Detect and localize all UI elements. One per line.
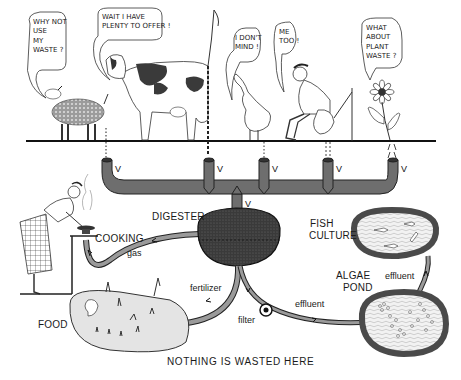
label-filter: filter [238,316,255,325]
woman-cooking-illustration [20,182,84,294]
label-fertilizer: fertilizer [190,284,222,293]
caption: NOTHING IS WASTED HERE [167,357,314,367]
label-pond: POND [343,283,373,293]
label-effluent-top: effluent [385,272,414,281]
goose-illustration [234,74,271,140]
label-fish: FISH [310,219,334,229]
label-culture: CULTURE [309,231,357,241]
pipe-mark-2: V [217,164,223,174]
toilet-waste-drip [326,142,330,160]
label-cooking: COOKING [95,234,144,244]
speech-text-cow: WAIT I HAVE PLENTY TO OFFER ! [102,13,170,32]
label-algae: ALGAE [336,271,370,281]
plant-waste-drip [388,144,396,158]
algae-pond [362,292,446,354]
pipe-mark-6: V [245,199,251,209]
pipe-mark-3: V [272,164,278,174]
label-effluent-bottom: effluent [295,300,324,309]
label-food: FOOD [38,320,68,330]
man-on-toilet-illustration [286,64,352,141]
label-gas: gas [127,249,142,258]
pipe-mark-1: V [115,164,121,174]
speech-text-sheep: WHY NOT USE MY WASTE ? [33,18,67,56]
label-digester: DIGESTER [152,212,205,222]
digester-tank [198,208,280,266]
food-field [70,278,189,352]
sheep-illustration [45,86,108,140]
fish-culture-pond [354,210,436,256]
pipe-mark-4: V [336,164,342,174]
speech-text-goose: I DON'T MIND ! [235,34,262,53]
speech-text-man: ME TOO ! [279,28,299,47]
pipe-mark-5: V [401,164,407,174]
flower-illustration [368,80,400,140]
speech-text-flower: WHAT ABOUT PLANT WASTE ? [366,24,396,62]
filter-icon [260,304,272,316]
